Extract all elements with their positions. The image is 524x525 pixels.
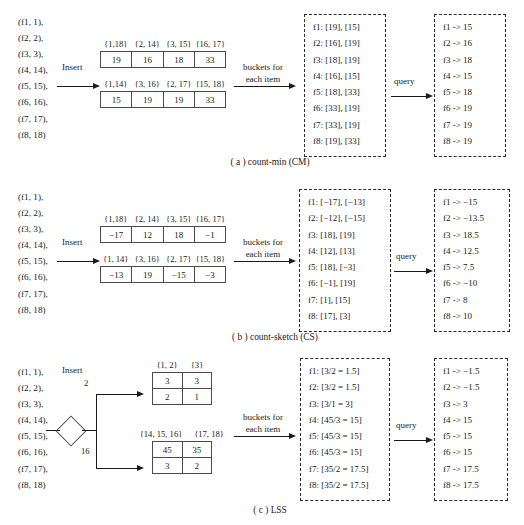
table-row: 45 35 (153, 442, 212, 458)
panel-caption-c: ( c ) LSS (215, 505, 325, 515)
sketch-row2-table-b: −13 19 −15 −3 (100, 266, 226, 283)
key-label: {1, 2} (152, 360, 182, 370)
table-row: 3 2 (153, 458, 212, 474)
bucket-cell: 16 (132, 52, 163, 68)
query-arrow-line-b (394, 271, 427, 272)
bucket-cell: 2 (153, 389, 183, 405)
bucket-cell: 3 (153, 373, 183, 389)
query-result-entry: f5 -> 7.5 (435, 259, 509, 275)
key-label: {2, 17} (163, 254, 195, 264)
buckets-arrow-line-a (234, 86, 290, 87)
lss-output-line (82, 430, 96, 431)
stream-item: (f2, 2), (18, 205, 48, 221)
key-label: {3, 16} (132, 79, 164, 89)
bucket-entry: f5: [45/3 = 15] (301, 428, 389, 444)
query-result-entry: f5 -> 18 (435, 84, 505, 100)
stream-item: (f8, 18) (18, 302, 48, 318)
query-result-box-c: f1 -> −1.5 f2 -> −1.5 f3 -> 3 f4 -> 15 f… (434, 358, 508, 501)
stream-item: (f3, 3), (18, 221, 48, 237)
sketch-row1-table-b: −17 12 18 −1 (100, 226, 226, 243)
buckets-label-line1: buckets for (232, 62, 294, 74)
key-label: {2, 14} (132, 214, 164, 224)
key-label: {16, 17} (195, 214, 227, 224)
bucket-entry: f4: [16], [15] (305, 68, 385, 84)
stream-item: (f1, 1), (18, 14, 48, 30)
panel-lss: (f1, 1), (f2, 2), (f3, 3), (f4, 14), (f5… (0, 350, 524, 525)
bucket-cell: 3 (182, 373, 212, 389)
lss-bottom-table: 45 35 3 2 (152, 441, 212, 474)
key-label: {16, 17} (195, 39, 227, 49)
insert-label: Insert (62, 237, 83, 247)
stream-item: (f5, 15), (18, 78, 48, 94)
sketch-row1-table-a: 19 16 18 33 (100, 51, 226, 68)
row2-key-labels-b: {1, 14} {3, 16} {2, 17} {15, 18} (100, 254, 226, 264)
stream-item: (f2, 2), (18, 30, 48, 46)
bucket-cell: 45 (153, 442, 183, 458)
query-result-entry: f7 -> 19 (435, 117, 505, 133)
bucket-cell: 18 (163, 52, 194, 68)
stream-item: (f3, 3), (18, 46, 48, 62)
buckets-label-line2: each item (232, 249, 294, 261)
buckets-label-line2: each item (232, 74, 294, 86)
table-row: 19 16 18 33 (101, 52, 226, 68)
query-result-entry: f4 -> 15 (435, 68, 505, 84)
query-result-entry: f3 -> 18.5 (435, 227, 509, 243)
query-result-entry: f6 -> 15 (435, 444, 507, 460)
query-result-entry: f7 -> 17.5 (435, 461, 507, 477)
bucket-cell: −13 (101, 267, 132, 283)
lss-bottom-table-keys: {14, 15, 16} {17, 18} (134, 429, 230, 439)
lss-edge-label-bottom: 16 (81, 446, 90, 456)
bucket-cell: 19 (101, 52, 132, 68)
bucket-cell: 19 (132, 267, 163, 283)
query-label-b: query (396, 251, 417, 261)
lss-branch-up-line (96, 394, 97, 431)
row1-key-labels-a: {1,18} {2, 14} {3, 15} {16, 17} (100, 39, 226, 49)
query-result-entry: f2 -> −1.5 (435, 379, 507, 395)
bucket-cell: 33 (194, 92, 225, 108)
buckets-result-box-c: f1: [3/2 = 1.5] f2: [3/2 = 1.5] f3: [3/1… (300, 358, 390, 501)
key-label: {17, 18} (188, 429, 230, 439)
query-result-entry: f3 -> 3 (435, 396, 507, 412)
query-result-entry: f8 -> 17.5 (435, 477, 507, 493)
query-result-entry: f4 -> 12.5 (435, 243, 509, 259)
panel-count-sketch: (f1, 1), (f2, 2), (f3, 3), (f4, 14), (f5… (0, 175, 524, 350)
bucket-entry: f6: [45/3 = 15] (301, 444, 389, 460)
key-label: {2, 17} (163, 79, 195, 89)
row2-key-labels-a: {1,14} {3, 16} {2, 17} {15, 18} (100, 79, 226, 89)
bucket-entry: f2: [−12], [−15] (300, 210, 390, 226)
query-result-entry: f2 -> −13.5 (435, 210, 509, 226)
buckets-result-box-b: f1: [−17], [−13] f2: [−12], [−15] f3: [1… (299, 189, 391, 332)
buckets-for-each-item-label-b: buckets for each item (232, 237, 294, 260)
insert-arrow-line (57, 261, 94, 262)
insert-arrow-head (93, 258, 100, 264)
stream-item: (f6, 16), (18, 269, 48, 285)
key-label: {3, 15} (163, 39, 195, 49)
stream-item: (f7, 17), (18, 286, 48, 302)
bucket-cell: −15 (163, 267, 194, 283)
lss-branch-up-arrow-head (137, 391, 144, 397)
table-row: 15 19 19 33 (101, 92, 226, 108)
stream-item: (f6, 16), (18, 444, 48, 460)
bucket-cell: 19 (163, 92, 194, 108)
bucket-cell: −17 (101, 227, 132, 243)
query-result-entry: f5 -> 15 (435, 428, 507, 444)
bucket-entry: f3: [18], [19] (300, 227, 390, 243)
stream-item: (f6, 16), (18, 94, 48, 110)
insert-arrow-line (57, 86, 94, 87)
bucket-entry: f8: [19], [33] (305, 133, 385, 149)
query-result-entry: f6 -> −10 (435, 275, 509, 291)
insert-label: Insert (62, 365, 83, 375)
buckets-for-each-item-label-a: buckets for each item (232, 62, 294, 85)
bucket-entry: f5: [18], [33] (305, 84, 385, 100)
stream-item: (f3, 3), (18, 396, 48, 412)
stream-item: (f4, 14), (18, 237, 48, 253)
stream-item: (f4, 14), (18, 62, 48, 78)
query-label-a: query (394, 76, 415, 86)
lss-top-table-keys: {1, 2} {3} (152, 360, 212, 370)
bucket-cell: −3 (194, 267, 225, 283)
query-label-c: query (396, 420, 417, 430)
panel-caption-b: ( b ) count-sketch (CS) (205, 332, 345, 342)
query-arrow-line-a (391, 96, 427, 97)
query-result-entry: f4 -> 15 (435, 412, 507, 428)
bucket-cell: 33 (194, 52, 225, 68)
